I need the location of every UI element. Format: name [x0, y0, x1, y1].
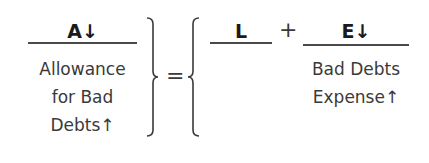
asset-rule [28, 42, 137, 44]
asset-label-line-3: Debts↑ [20, 111, 145, 139]
equity-heading: E↓ [303, 20, 409, 42]
equity-label: Bad Debts Expense↑ [300, 55, 412, 111]
asset-label-line-1: Allowance [20, 55, 145, 83]
right-brace-icon [144, 16, 160, 138]
asset-label-line-2: for Bad [20, 83, 145, 111]
liability-heading: L [210, 20, 272, 42]
equity-rule [303, 44, 409, 46]
equity-label-line-1: Bad Debts [300, 55, 412, 83]
asset-heading: A↓ [28, 20, 137, 42]
equals-sign: = [166, 63, 184, 88]
liability-rule [210, 42, 272, 44]
plus-sign: + [279, 17, 297, 42]
left-brace-icon [186, 16, 202, 138]
equity-label-line-2: Expense↑ [300, 83, 412, 111]
asset-label: Allowance for Bad Debts↑ [20, 55, 145, 139]
